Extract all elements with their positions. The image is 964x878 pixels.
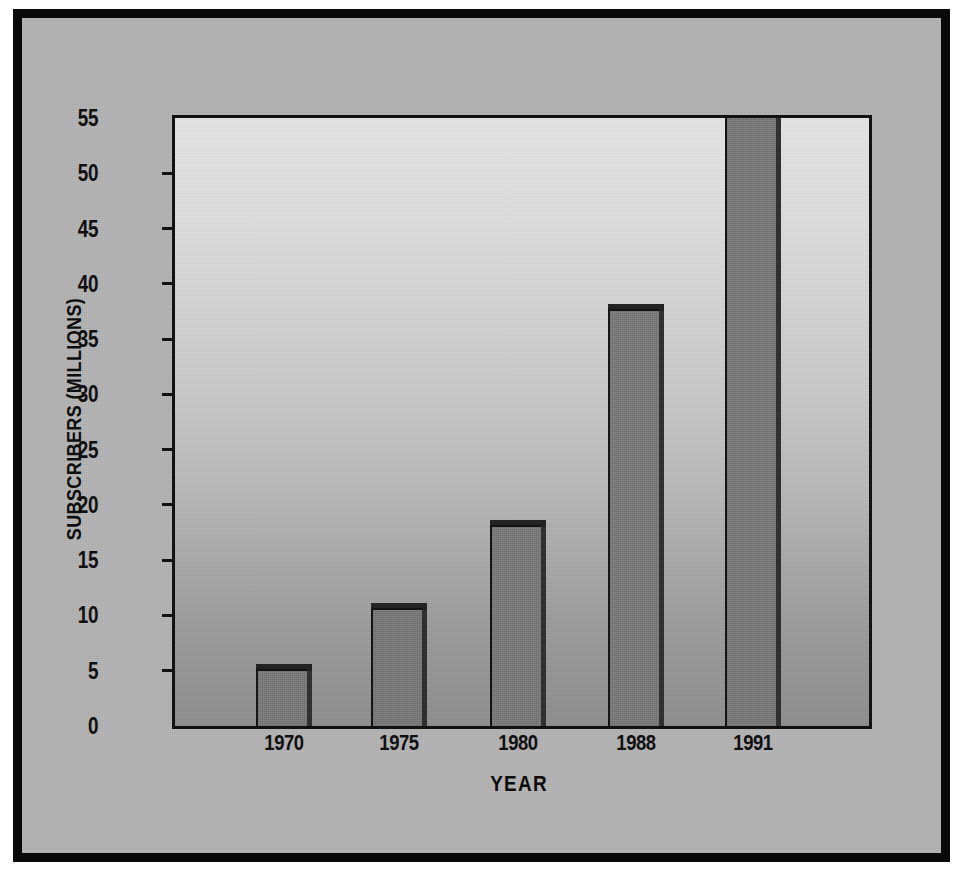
y-tick-mark [162, 282, 175, 285]
x-tick-label: 1970 [246, 730, 322, 756]
y-tick-mark [162, 393, 175, 396]
bar-front-face [256, 669, 307, 726]
y-tick-label: 0 [49, 713, 98, 740]
bar-front-face [725, 116, 776, 726]
bar-front-face [490, 525, 541, 726]
y-tick-mark [162, 503, 175, 506]
y-tick-mark [162, 448, 175, 451]
figure-background: 5550454035302520151050 19701975198019881… [22, 18, 941, 853]
x-tick-label: 1988 [598, 730, 674, 756]
bar-1991 [725, 118, 781, 726]
x-tick-label: 1991 [715, 730, 791, 756]
y-tick-mark [162, 172, 175, 175]
y-tick-label: 15 [49, 547, 98, 574]
bar-1970 [256, 671, 312, 726]
bar-front-face [608, 309, 659, 726]
y-tick-label: 10 [49, 602, 98, 629]
y-tick-label: 40 [49, 270, 98, 297]
y-tick-mark [162, 338, 175, 341]
x-tick-label: 1980 [480, 730, 556, 756]
y-tick-label: 5 [49, 657, 98, 684]
bar-1988 [608, 311, 664, 726]
y-tick-mark [162, 227, 175, 230]
y-tick-mark [162, 559, 175, 562]
y-axis-title: SUBSCRIBERS (MILLIONS) [62, 298, 86, 540]
plot-area [172, 115, 872, 729]
bar-chart: 5550454035302520151050 19701975198019881… [22, 18, 941, 853]
bar-1975 [371, 610, 427, 726]
y-tick-label: 45 [49, 215, 98, 242]
bar-front-face [371, 608, 422, 726]
x-tick-label: 1975 [361, 730, 437, 756]
y-tick-mark [162, 614, 175, 617]
figure-frame: 5550454035302520151050 19701975198019881… [13, 9, 950, 862]
x-axis-title: YEAR [490, 771, 548, 797]
y-tick-mark [162, 669, 175, 672]
bar-1980 [490, 527, 546, 726]
y-tick-label: 55 [49, 105, 98, 132]
y-tick-label: 50 [49, 160, 98, 187]
